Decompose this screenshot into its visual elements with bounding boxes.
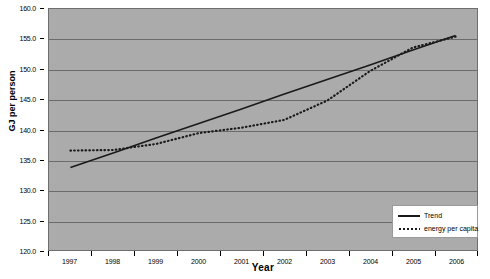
y-tick-label: 125.0 [19,217,36,224]
x-tick-mark [349,251,350,256]
legend-item-trend: Trend [398,211,442,221]
x-tick-mark [392,251,393,256]
y-tick-mark [40,38,44,39]
y-tick-mark [40,130,44,131]
y-tick-label: 150.0 [19,65,36,72]
legend-item-energy-per-capita: energy per capita [398,224,478,234]
x-tick-mark [48,251,49,256]
y-tick-label: 130.0 [19,187,36,194]
legend-dotted-line-icon [398,225,420,233]
x-tick-mark [134,251,135,256]
x-tick-mark [263,251,264,256]
y-tick-mark [40,160,44,161]
y-tick-label: 160.0 [19,5,36,12]
x-tick-mark [306,251,307,256]
x-tick-mark [435,251,436,256]
series-energy-per-capita-line [70,37,455,151]
y-tick-label: 145.0 [19,96,36,103]
y-tick-label: 120.0 [19,248,36,255]
chart-legend: Trend energy per capita [392,205,478,238]
y-tick-mark [40,190,44,191]
x-tick-mark [91,251,92,256]
y-tick-mark [40,251,44,252]
y-tick-label: 135.0 [19,156,36,163]
y-tick-mark [40,221,44,222]
x-tick-mark [220,251,221,256]
y-tick-mark [40,69,44,70]
y-axis-labels: 120.0125.0130.0135.0140.0145.0150.0155.0… [0,8,44,251]
x-axis-title: Year [48,262,478,273]
legend-label: energy per capita [424,225,478,233]
y-tick-label: 155.0 [19,35,36,42]
legend-solid-line-icon [398,212,420,220]
y-tick-label: 140.0 [19,126,36,133]
y-tick-mark [40,8,44,9]
x-tick-mark [177,251,178,256]
y-tick-mark [40,99,44,100]
legend-label: Trend [424,212,442,220]
x-tick-mark [477,251,478,256]
chart-container: GJ per person 120.0125.0130.0135.0140.01… [0,0,490,279]
